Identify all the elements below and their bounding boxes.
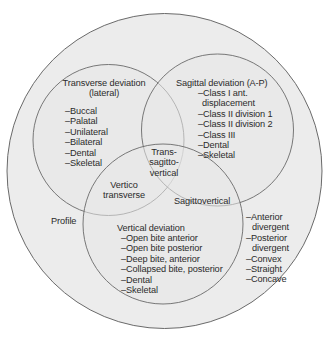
list-item: –Buccal — [65, 106, 108, 116]
list-item: –Deep bite, anterior — [121, 254, 223, 264]
profile-label: Profile — [51, 216, 76, 226]
list-item: –Dental — [198, 140, 273, 150]
list-item: –Skeletal — [65, 158, 108, 168]
list-item: –Straight — [246, 264, 289, 274]
list-item: –Class II division 1 — [198, 109, 273, 119]
list-item: –Bilateral — [65, 137, 108, 147]
list-item: –Unilateral — [65, 127, 108, 137]
list-item: –Skeletal — [198, 150, 273, 160]
trans-sagitto-vertical-label: Trans- sagitto- vertical — [139, 147, 189, 178]
sagittovertical-label: Sagittovertical — [174, 196, 230, 206]
list-item: divergent — [246, 243, 289, 253]
list-item: –Posterior — [246, 233, 289, 243]
profile-list: –Anterior divergent –Posterior divergent… — [246, 212, 289, 285]
list-item: –Dental — [121, 275, 223, 285]
vertico-transverse-label: Vertico transverse — [92, 180, 156, 201]
list-item: –Dental — [65, 148, 108, 158]
vertical-list: –Open bite anterior –Open bite posterior… — [121, 233, 223, 295]
list-item: –Skeletal — [121, 285, 223, 295]
list-item: –Palatal — [65, 116, 108, 126]
list-item: –Open bite posterior — [121, 243, 223, 253]
list-item: –Collapsed bite, posterior — [121, 264, 223, 274]
list-item: –Class I ant. — [198, 88, 273, 98]
sagittal-title: Sagittal deviation (A-P) — [176, 78, 268, 88]
list-item: displacement — [198, 98, 273, 108]
transverse-title: Transverse deviation (lateral) — [54, 78, 154, 99]
list-item: –Class III — [198, 130, 273, 140]
list-item: –Open bite anterior — [121, 233, 223, 243]
list-item: –Concave — [246, 274, 289, 284]
list-item: divergent — [246, 222, 289, 232]
transverse-list: –Buccal –Palatal –Unilateral –Bilateral … — [65, 106, 108, 168]
vertical-title: Vertical deviation — [117, 223, 185, 233]
list-item: –Anterior — [246, 212, 289, 222]
list-item: –Convex — [246, 254, 289, 264]
list-item: –Class II division 2 — [198, 119, 273, 129]
sagittal-list: –Class I ant. displacement –Class II div… — [198, 88, 273, 161]
